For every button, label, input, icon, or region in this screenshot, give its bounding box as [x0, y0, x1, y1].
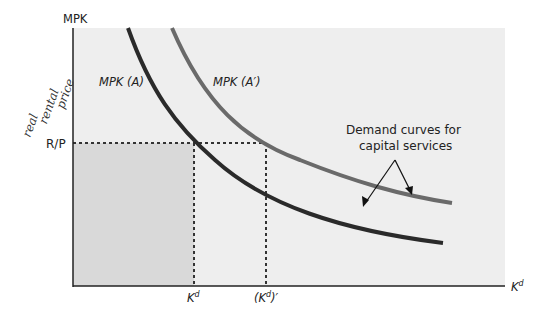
- demand-curves-annotation-line1: Demand curves for: [346, 123, 461, 137]
- shaded-capital-cost-region: [73, 143, 194, 286]
- tick-label-kd-prime: (Kd)′: [254, 290, 279, 305]
- handwritten-annotation: real rental price: [20, 69, 77, 146]
- curve-mpk-a-prime-label: MPK (A′): [213, 75, 261, 89]
- x-axis-title: Kd: [511, 279, 525, 294]
- curve-mpk-a-label: MPK (A): [99, 75, 144, 89]
- tick-label-kd: Kd: [187, 290, 201, 305]
- demand-curves-annotation-line2: capital services: [359, 139, 452, 153]
- mpk-demand-diagram: MPK R/P real rental price MPK (A) MPK (A…: [0, 0, 539, 316]
- y-axis-title: MPK: [63, 12, 88, 26]
- r-over-p-label: R/P: [46, 137, 66, 151]
